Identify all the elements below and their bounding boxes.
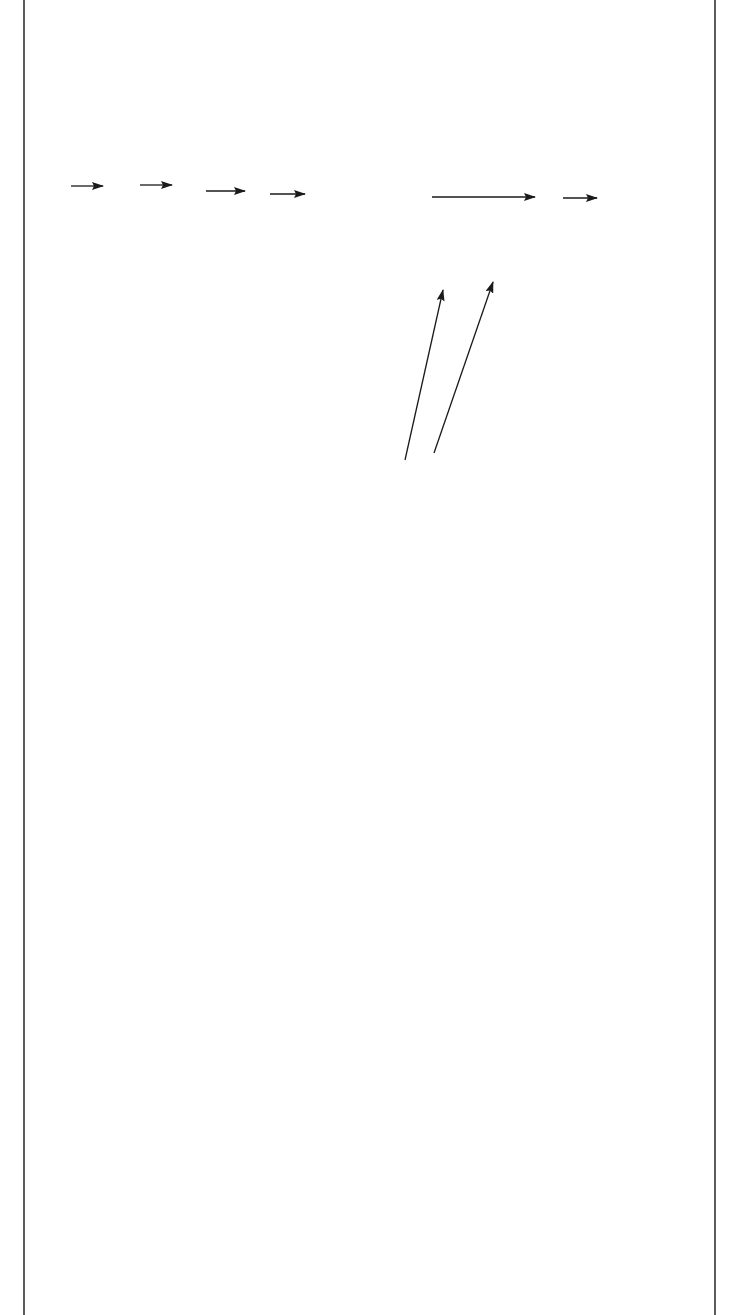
arrow-to-national-assembly bbox=[405, 290, 443, 460]
connector-lines bbox=[0, 0, 740, 1315]
arrow-to-control-legislative bbox=[434, 282, 493, 453]
org-chart-diagram bbox=[0, 0, 740, 1315]
